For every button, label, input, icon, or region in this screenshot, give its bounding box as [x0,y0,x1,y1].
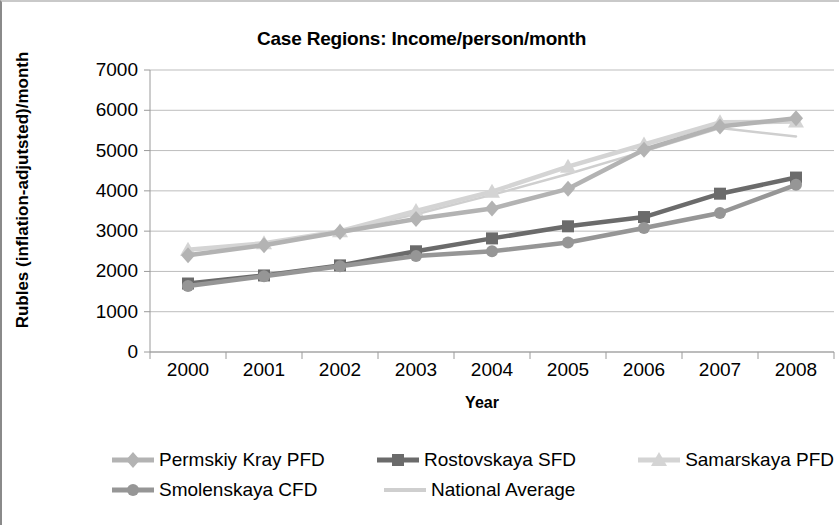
legend-row: Permskiy Kray PFDRostovskaya SFDSamarska… [110,445,834,475]
data-point-marker [182,280,194,292]
legend-item-smolenskaya-cfd[interactable]: Smolenskaya CFD [110,475,382,505]
legend-item-samarskaya-pfd[interactable]: Samarskaya PFD [636,445,834,475]
legend-item-permskiy-kray-pfd[interactable]: Permskiy Kray PFD [110,445,375,475]
legend-label: Smolenskaya CFD [159,479,317,501]
legend-item-rostovskaya-sfd[interactable]: Rostovskaya SFD [375,445,636,475]
legend-item-national-average[interactable]: National Average [382,475,575,505]
data-point-marker [638,222,650,234]
data-point-marker [562,220,574,232]
data-point-marker [562,236,574,248]
data-point-marker [334,260,346,272]
data-point-marker [486,232,498,244]
legend-marker-circle-icon [110,481,156,499]
y-axis-tick-label: 6000 [64,100,138,119]
data-point-marker [333,224,347,240]
legend-label: Samarskaya PFD [685,449,834,471]
data-point-marker [561,181,575,197]
legend-marker-square-icon [375,451,421,469]
y-axis-tick-label: 2000 [64,261,138,280]
data-point-marker [638,211,650,223]
data-point-marker [392,454,404,466]
y-axis-tick-label: 0 [64,342,138,361]
y-axis-tick-label: 7000 [64,60,138,79]
y-axis-tick-label: 3000 [64,221,138,240]
legend-marker-triangle-icon [636,451,682,469]
data-point-marker [410,250,422,262]
legend-label: Permskiy Kray PFD [159,449,325,471]
data-point-marker [485,201,499,217]
chart-legend: Permskiy Kray PFDRostovskaya SFDSamarska… [110,445,834,505]
y-axis-tick-label: 4000 [64,181,138,200]
data-point-marker [790,179,802,191]
legend-row: Smolenskaya CFDNational Average [110,475,834,505]
data-point-marker [257,237,271,253]
x-axis-tick-label: 2008 [751,360,839,379]
data-point-marker [126,452,140,468]
legend-marker-none-icon [382,481,428,499]
legend-label: National Average [431,479,575,501]
data-point-marker [486,245,498,257]
data-point-marker [258,270,270,282]
data-point-marker [714,207,726,219]
legend-label: Rostovskaya SFD [424,449,576,471]
data-point-marker [127,484,139,496]
chart-container: Case Regions: Income/person/month Rubles… [0,0,839,525]
data-point-marker [714,188,726,200]
legend-marker-diamond-icon [110,451,156,469]
y-axis-tick-label: 5000 [64,141,138,160]
y-axis-tick-label: 1000 [64,302,138,321]
